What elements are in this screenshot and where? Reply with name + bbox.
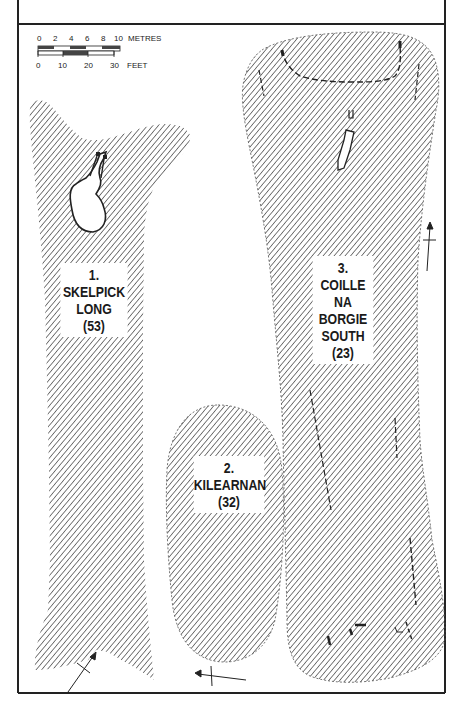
site-3-label: 3. COILLE NA BORGIE SOUTH (23) [313,256,374,364]
site-3-name-line-3: BORGIE [313,310,374,327]
feet-unit-label: FEET [127,61,148,70]
metres-bar-seg [70,46,86,49]
scale-bar: 0 2 4 6 8 10 METRES 0 10 20 30 FEET [36,34,161,70]
site-3-name-line-1: COILLE [313,276,374,293]
site-3-ref: (23) [313,344,374,361]
metres-tick-2: 2 [53,34,58,43]
site-3-name-line-2: NA [313,293,374,310]
site-1-mound [30,100,190,680]
site-2-number: 2. [194,459,265,476]
metres-tick-6: 6 [85,34,90,43]
site-1-ref: (53) [60,317,127,334]
site-3-number: 3. [313,259,374,276]
site-plans-figure: 0 2 4 6 8 10 METRES 0 10 20 30 FEET [0,0,470,702]
north-arrow-icon [423,222,436,271]
feet-tick-20: 20 [84,61,93,70]
site-3-name-line-4: SOUTH [313,327,374,344]
metres-unit-label: METRES [128,34,161,43]
feet-bar-seg [63,51,88,55]
feet-tick-0: 0 [36,61,41,70]
site-1-name-line-1: SKELPICK [60,283,127,300]
site-2-label: 2. KILEARNAN (32) [194,456,265,513]
metres-tick-8: 8 [101,34,106,43]
metres-tick-10: 10 [114,34,123,43]
site-2-mound [166,405,283,662]
metres-tick-4: 4 [69,34,74,43]
feet-tick-30: 30 [110,61,119,70]
site-1-name-line-2: LONG [60,300,127,317]
site-2-name-line-1: KILEARNAN [194,476,265,493]
metres-bar-seg [102,46,120,49]
metres-tick-0: 0 [37,34,42,43]
site-2-ref: (32) [194,493,265,510]
north-arrow-icon [195,666,246,686]
metres-bar-seg [38,46,54,49]
feet-tick-10: 10 [58,61,67,70]
site-1-number: 1. [60,266,127,283]
site-1-label: 1. SKELPICK LONG (53) [60,263,127,337]
